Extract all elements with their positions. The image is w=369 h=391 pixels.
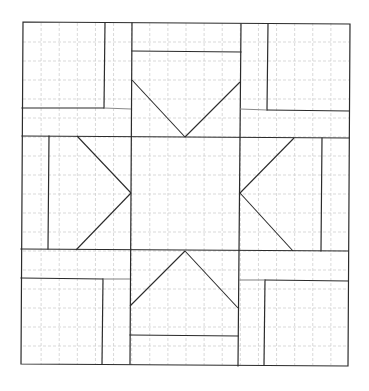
corner-top-right: [240, 24, 349, 111]
center-square: [131, 137, 239, 250]
star-point-bottom: [130, 251, 238, 336]
star-point-top: [132, 51, 241, 137]
star-point-right: [240, 138, 322, 251]
quilt-diagram: [0, 0, 369, 391]
corner-top-left: [22, 23, 131, 109]
corner-bottom-right: [239, 280, 348, 365]
dashed-grid: [23, 23, 349, 365]
star-point-left: [48, 136, 131, 250]
